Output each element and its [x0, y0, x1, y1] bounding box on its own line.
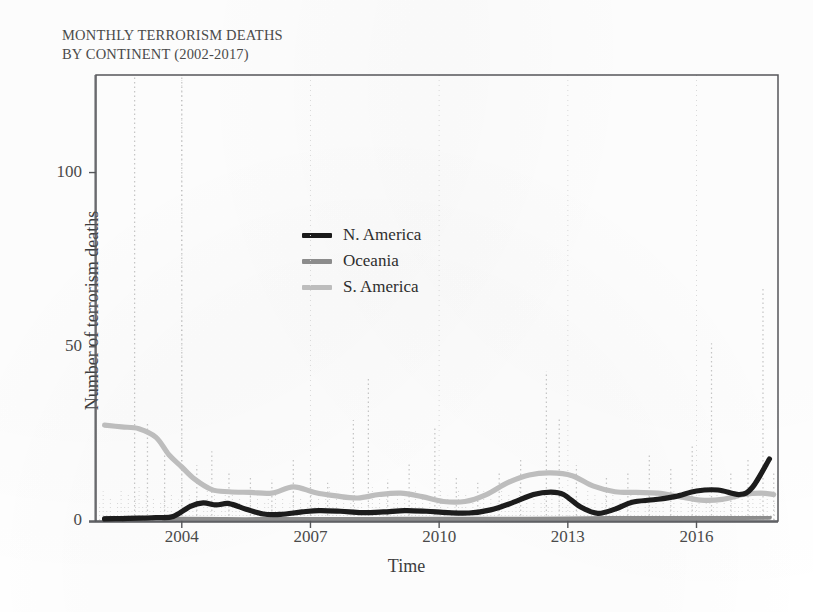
- grid-lines: [182, 75, 697, 521]
- raw-data-spikes: [96, 75, 774, 520]
- plot-frame: [96, 75, 778, 521]
- chart-figure: MONTHLY TERRORISM DEATHS BY CONTINENT (2…: [0, 0, 813, 612]
- axis-tick-marks: [89, 75, 778, 528]
- plot-area: [0, 0, 813, 612]
